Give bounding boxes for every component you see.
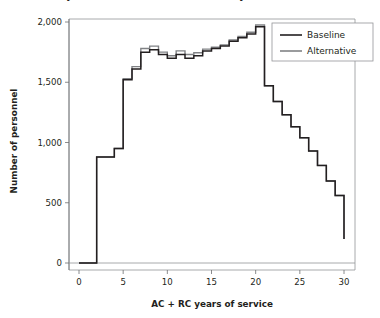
x-axis-ticks: 051015202530 [76, 270, 349, 287]
x-tick-label: 25 [294, 277, 305, 287]
x-tick-label: 20 [250, 277, 261, 287]
chart-legend: BaselineAlternative [272, 23, 373, 61]
x-tick-label: 5 [120, 277, 125, 287]
chart-canvas: 05001,0001,5002,000 051015202530 Number … [0, 0, 380, 318]
x-tick-label: 10 [162, 277, 173, 287]
series-line-baseline [79, 27, 344, 263]
legend-label: Alternative [307, 46, 357, 56]
x-tick-label: 15 [206, 277, 217, 287]
y-tick-label: 2,000 [37, 17, 62, 27]
y-tick-label: 500 [46, 198, 62, 208]
legend-label: Baseline [307, 30, 346, 40]
x-tick-label: 30 [339, 277, 350, 287]
y-axis-title: Number of personnel [9, 89, 19, 194]
chart-figure: Projected Distribution of Personnel by Y… [0, 0, 380, 318]
y-tick-label: 1,000 [37, 138, 62, 148]
y-tick-label: 0 [57, 258, 62, 268]
y-tick-label: 1,500 [37, 77, 62, 87]
y-axis-ticks: 05001,0001,5002,000 [37, 17, 69, 268]
x-tick-label: 0 [76, 277, 81, 287]
x-axis-title: AC + RC years of service [151, 299, 273, 309]
